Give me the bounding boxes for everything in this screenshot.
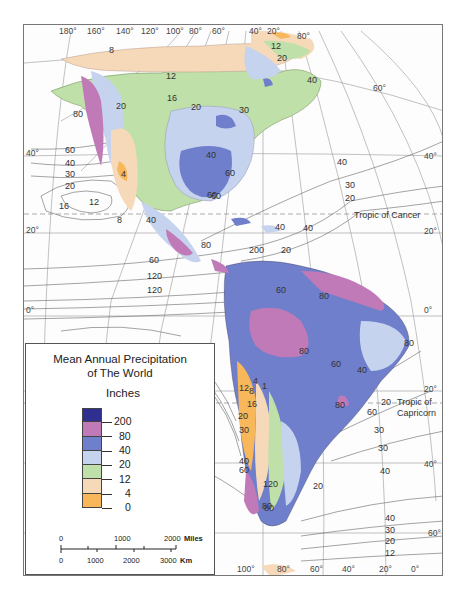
svg-text:40: 40 — [337, 157, 347, 167]
svg-text:4: 4 — [121, 169, 126, 179]
tick-200 — [102, 422, 112, 423]
scale-km-unit: Km — [180, 556, 192, 565]
svg-text:180°: 180° — [59, 26, 77, 36]
scale-miles-1000: 1000 — [114, 534, 131, 543]
svg-text:30: 30 — [239, 105, 249, 115]
legend-label-20: 20 — [119, 459, 131, 470]
svg-text:1: 1 — [262, 381, 267, 391]
svg-text:60°: 60° — [310, 564, 323, 574]
svg-text:20: 20 — [313, 481, 323, 491]
svg-text:20: 20 — [281, 245, 291, 255]
svg-text:40°: 40° — [26, 148, 39, 158]
svg-text:40: 40 — [275, 222, 285, 232]
svg-text:12: 12 — [89, 197, 99, 207]
svg-text:20: 20 — [65, 181, 75, 191]
svg-text:80: 80 — [404, 338, 414, 348]
svg-text:40: 40 — [206, 150, 216, 160]
tick-40 — [102, 451, 112, 452]
svg-text:30: 30 — [374, 425, 384, 435]
svg-text:40: 40 — [357, 365, 367, 375]
svg-text:80°: 80° — [189, 26, 202, 36]
svg-text:40°: 40° — [249, 26, 262, 36]
svg-text:40°: 40° — [342, 564, 355, 574]
svg-text:8: 8 — [249, 386, 254, 396]
scale-miles-2000: 2000 — [164, 534, 181, 543]
svg-text:12: 12 — [385, 548, 395, 558]
svg-text:30: 30 — [345, 180, 355, 190]
svg-text:60: 60 — [239, 465, 249, 475]
svg-text:20°: 20° — [267, 26, 280, 36]
legend: Mean Annual Precipitation of The World I… — [25, 343, 215, 575]
svg-text:80: 80 — [335, 400, 345, 410]
svg-text:20: 20 — [345, 193, 355, 203]
svg-text:40: 40 — [303, 223, 313, 233]
svg-text:20: 20 — [116, 101, 126, 111]
svg-text:120: 120 — [147, 285, 162, 295]
svg-text:100°: 100° — [237, 564, 255, 574]
scale-km-1000: 1000 — [87, 556, 104, 565]
svg-text:60: 60 — [331, 359, 341, 369]
svg-text:20: 20 — [381, 397, 391, 407]
svg-text:60: 60 — [149, 255, 159, 265]
svg-text:40: 40 — [146, 215, 156, 225]
scale-km-0: 0 — [59, 556, 63, 565]
svg-text:20°: 20° — [424, 384, 437, 394]
svg-text:16: 16 — [59, 201, 69, 211]
svg-text:60°: 60° — [428, 528, 441, 538]
scale-bar: 0 1000 2000 Miles 0 1000 2000 3000 Km — [56, 534, 206, 570]
svg-text:0°: 0° — [411, 564, 419, 574]
svg-text:60°: 60° — [373, 83, 386, 93]
legend-title-line2: of The World — [26, 366, 214, 380]
legend-title-line1: Mean Annual Precipitation — [26, 352, 214, 366]
svg-text:Tropic of: Tropic of — [397, 397, 432, 407]
svg-text:80: 80 — [201, 240, 211, 250]
legend-units: Inches — [106, 387, 140, 399]
legend-label-200: 200 — [114, 416, 132, 427]
svg-text:20: 20 — [277, 53, 287, 63]
scale-line — [56, 544, 206, 556]
svg-text:0°: 0° — [26, 305, 34, 315]
legend-label-80: 80 — [119, 431, 131, 442]
swatch-0 — [82, 494, 102, 508]
svg-text:30: 30 — [385, 525, 395, 535]
svg-text:12: 12 — [271, 41, 281, 51]
svg-text:Capricorn: Capricorn — [397, 408, 436, 418]
svg-text:40: 40 — [385, 513, 395, 523]
svg-text:80: 80 — [264, 503, 274, 513]
svg-text:40°: 40° — [424, 151, 437, 161]
svg-text:20°: 20° — [26, 225, 39, 235]
svg-text:100°: 100° — [166, 26, 184, 36]
caribbean — [231, 218, 281, 233]
svg-text:40: 40 — [65, 158, 75, 168]
svg-text:80°: 80° — [297, 31, 310, 41]
svg-text:140°: 140° — [116, 26, 134, 36]
swatch-200 — [82, 408, 102, 422]
svg-text:40°: 40° — [424, 459, 437, 469]
svg-text:12: 12 — [239, 383, 249, 393]
svg-text:160°: 160° — [87, 26, 105, 36]
svg-text:60: 60 — [211, 191, 221, 201]
svg-text:120°: 120° — [141, 26, 159, 36]
tick-80 — [102, 436, 112, 437]
svg-text:8: 8 — [117, 215, 122, 225]
scale-km-3000: 3000 — [160, 556, 177, 565]
svg-text:Tropic of Cancer: Tropic of Cancer — [354, 210, 420, 220]
svg-text:8: 8 — [109, 45, 114, 55]
svg-text:20: 20 — [385, 536, 395, 546]
legend-label-4: 4 — [125, 488, 131, 499]
tick-12 — [102, 479, 112, 480]
tick-20 — [102, 465, 112, 466]
svg-text:12: 12 — [166, 71, 176, 81]
svg-text:80: 80 — [319, 291, 329, 301]
svg-text:20: 20 — [191, 102, 201, 112]
svg-text:20°: 20° — [424, 226, 437, 236]
svg-text:80: 80 — [299, 346, 309, 356]
svg-text:30: 30 — [65, 169, 75, 179]
svg-text:60: 60 — [65, 145, 75, 155]
legend-title: Mean Annual Precipitation of The World — [26, 352, 214, 380]
scale-miles-0: 0 — [59, 534, 63, 543]
svg-text:60°: 60° — [212, 26, 225, 36]
legend-label-12: 12 — [119, 474, 131, 485]
scale-km-2000: 2000 — [123, 556, 140, 565]
svg-text:30: 30 — [239, 425, 249, 435]
